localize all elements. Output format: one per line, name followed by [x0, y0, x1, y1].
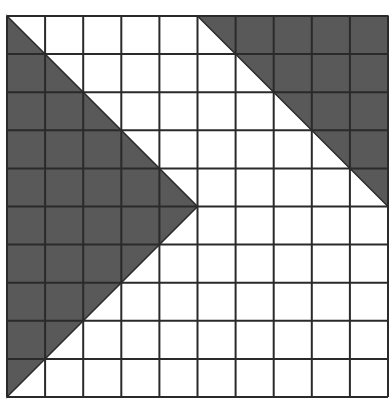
top-right-triangle	[198, 16, 389, 207]
grid-diagram	[0, 0, 391, 401]
